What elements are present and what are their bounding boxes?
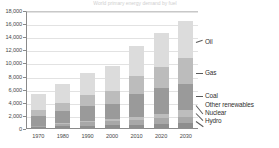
- x-axis-tick-label: 2020: [149, 133, 174, 140]
- bar-segment-coal[interactable]: [154, 88, 169, 113]
- series-callouts: OilGasCoalOther renewablesNuclearHydro: [196, 0, 279, 148]
- x-axis-tick-label: 2030: [173, 133, 198, 140]
- bar-segment-gas[interactable]: [129, 76, 144, 94]
- bar-segment-oil[interactable]: [80, 73, 95, 95]
- chart-title: World primary energy demand by fuel: [60, 0, 210, 6]
- bar-segment-coal[interactable]: [55, 111, 70, 123]
- bar-segment-hydro[interactable]: [129, 125, 144, 129]
- x-axis: 1970198019902000201020202030: [26, 130, 198, 146]
- callout-coal: Coal: [196, 92, 218, 100]
- bar-segment-hydro[interactable]: [154, 124, 169, 129]
- y-axis-tick-label: 0: [19, 126, 22, 132]
- callout-other-renewables: Other renewables: [196, 101, 254, 109]
- bar-segment-gas[interactable]: [105, 91, 120, 105]
- y-axis-tick-label: 14,000: [5, 34, 22, 40]
- x-axis-tick-label: 1970: [26, 133, 51, 140]
- bar-segment-other-renewables[interactable]: [178, 110, 193, 117]
- x-axis-tick-label: 1990: [75, 133, 100, 140]
- bar-2000[interactable]: [105, 66, 120, 129]
- bar-2030[interactable]: [178, 21, 193, 129]
- bar-segment-hydro[interactable]: [31, 127, 46, 129]
- bar-segment-coal[interactable]: [31, 116, 46, 126]
- y-axis-tick-label: 12,000: [5, 47, 22, 53]
- y-axis-tick-label: 8,000: [9, 74, 23, 80]
- bar-segment-oil[interactable]: [129, 46, 144, 76]
- bar-segment-gas[interactable]: [55, 103, 70, 111]
- x-axis-tick-label: 2010: [124, 133, 149, 140]
- callout-hydro: Hydro: [196, 117, 222, 125]
- leader-line: [196, 73, 203, 74]
- bar-segment-gas[interactable]: [80, 95, 95, 106]
- y-axis-tick-label: 16,000: [5, 21, 22, 27]
- callout-oil: Oil: [196, 38, 213, 46]
- bar-segment-oil[interactable]: [105, 66, 120, 90]
- bar-segment-coal[interactable]: [105, 104, 120, 119]
- bar-1990[interactable]: [80, 73, 95, 129]
- bar-segment-coal[interactable]: [80, 106, 95, 121]
- bar-2010[interactable]: [129, 46, 144, 129]
- bar-segment-hydro[interactable]: [105, 125, 120, 129]
- bar-1970[interactable]: [31, 94, 46, 129]
- x-axis-tick-label: 2000: [100, 133, 125, 140]
- leader-line: [196, 96, 203, 97]
- bar-segment-hydro[interactable]: [55, 126, 70, 129]
- y-axis-tick-label: 10,000: [5, 60, 22, 66]
- callout-nuclear-label: Nuclear: [196, 109, 226, 117]
- bar-segment-oil[interactable]: [178, 21, 193, 58]
- callout-other-renewables-label: Other renewables: [196, 101, 254, 109]
- y-axis-tick-label: 18,000: [5, 8, 22, 14]
- callout-gas: Gas: [196, 69, 216, 77]
- bar-segment-hydro[interactable]: [178, 123, 193, 129]
- bar-segment-coal[interactable]: [129, 94, 144, 117]
- bar-1980[interactable]: [55, 84, 70, 129]
- bar-segment-gas[interactable]: [154, 67, 169, 88]
- y-axis-tick-label: 4,000: [9, 100, 23, 106]
- y-axis: 02,0004,0006,0008,00010,00012,00014,0001…: [0, 11, 26, 129]
- bar-segment-oil[interactable]: [31, 94, 46, 110]
- y-axis-tick-label: 6,000: [9, 87, 23, 93]
- bar-segment-hydro[interactable]: [80, 126, 95, 129]
- x-axis-tick-label: 1980: [51, 133, 76, 140]
- bar-segment-oil[interactable]: [55, 84, 70, 103]
- stacked-bar-chart: World primary energy demand by fuel 02,0…: [0, 0, 279, 148]
- bar-segment-gas[interactable]: [178, 58, 193, 84]
- bar-2020[interactable]: [154, 33, 169, 129]
- bar-segment-coal[interactable]: [178, 84, 193, 110]
- bar-group: [26, 11, 198, 129]
- bar-segment-oil[interactable]: [154, 33, 169, 67]
- y-axis-tick-label: 2,000: [9, 113, 23, 119]
- callout-nuclear: Nuclear: [196, 109, 226, 117]
